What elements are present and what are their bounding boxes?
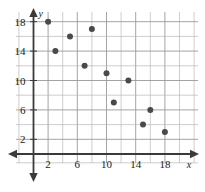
x-axis-arrow-right: [190, 150, 199, 158]
data-point: [125, 78, 131, 84]
y-tick-label: 14: [15, 45, 27, 57]
x-tick-label: 14: [130, 158, 142, 170]
data-point: [111, 100, 117, 106]
data-point: [67, 33, 73, 39]
scatter-plot-figure: 2610141826101418 yx: [0, 0, 205, 192]
x-tick-label: 2: [45, 158, 51, 170]
y-axis-arrow-down: [29, 173, 37, 182]
data-point: [140, 122, 146, 128]
x-axis-title: x: [186, 159, 192, 170]
x-tick-label: 18: [159, 158, 171, 170]
data-point: [45, 19, 51, 25]
y-axis-arrow-up: [29, 8, 37, 17]
data-point: [104, 70, 110, 76]
y-tick-label: 2: [20, 133, 26, 145]
y-tick-label: 10: [15, 75, 27, 87]
y-axis-title: y: [38, 8, 44, 19]
data-point: [147, 107, 153, 113]
data-point: [82, 63, 88, 69]
x-tick-label: 10: [101, 158, 113, 170]
data-point: [52, 48, 58, 54]
y-tick-label: 6: [20, 104, 26, 116]
axis-titles-group: yx: [38, 8, 192, 170]
y-tick-label: 18: [15, 16, 27, 28]
data-point: [162, 129, 168, 135]
grid-lines: [16, 12, 198, 163]
x-tick-label: 6: [75, 158, 81, 170]
tick-labels-group: 2610141826101418: [15, 16, 171, 170]
chart-canvas: 2610141826101418 yx: [0, 0, 205, 192]
data-point: [89, 26, 95, 32]
x-axis-arrow-left: [8, 150, 17, 158]
